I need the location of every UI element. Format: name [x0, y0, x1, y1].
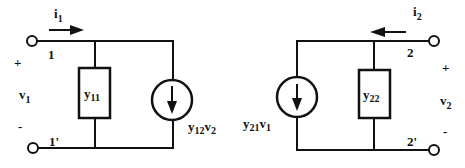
terminal-1-label: 1 — [48, 47, 55, 62]
terminal-1-prime-label: 1' — [49, 134, 59, 149]
current-label-i1: i1 — [54, 6, 63, 24]
terminal-2-prime — [429, 145, 439, 155]
voltage-label-v1: v1 — [19, 87, 31, 105]
left-circuit: i1 1 1' y11 y12v2 + v1 - — [14, 6, 216, 153]
right-circuit: i2 2 2' y22 y21v1 + v2 - — [243, 4, 452, 155]
minus-sign-v1: - — [18, 119, 22, 134]
source-label-y12v2: y12v2 — [188, 119, 216, 136]
minus-sign-v2: - — [443, 124, 447, 139]
terminal-1-prime — [28, 143, 38, 153]
current-label-i2: i2 — [413, 4, 422, 22]
plus-sign-v1: + — [14, 55, 21, 70]
source-label-y21v1: y21v1 — [243, 116, 271, 133]
voltage-label-v2: v2 — [440, 93, 452, 111]
current-arrow-i1 — [49, 25, 84, 35]
terminal-2 — [429, 36, 439, 46]
terminal-1 — [27, 36, 37, 46]
two-port-diagram: i1 1 1' y11 y12v2 + v1 - i2 — [0, 0, 465, 168]
terminal-2-prime-label: 2' — [407, 134, 417, 149]
plus-sign-v2: + — [442, 60, 449, 75]
current-arrow-i2 — [370, 27, 406, 37]
terminal-2-label: 2 — [407, 45, 414, 60]
